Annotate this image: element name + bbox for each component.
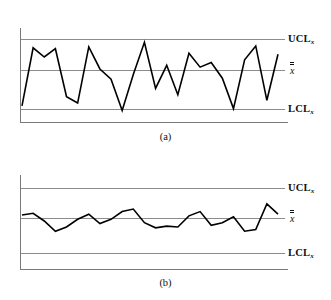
chart-b-center-label: x	[290, 214, 294, 224]
chart-b-ucl-label: UCLx	[288, 183, 314, 195]
chart-a-ucl-label: UCLx	[288, 34, 314, 46]
chart-b-ucl-text: UCL	[288, 182, 311, 193]
chart-a-center-text: x	[290, 66, 294, 76]
chart-a-center-label: x	[290, 66, 294, 76]
chart-b-data-line	[22, 204, 278, 231]
chart-a-plot-area	[0, 0, 331, 150]
chart-b-ucl-subscript: x	[311, 187, 315, 195]
chart-b-caption: (b)	[0, 277, 331, 288]
chart-b-lcl-subscript: x	[310, 252, 314, 260]
chart-a-lcl-label: LCLx	[288, 104, 314, 116]
control-chart-panel-b: UCLx x LCLx (b)	[0, 150, 331, 300]
chart-a-data-line	[22, 42, 278, 110]
chart-a-ucl-subscript: x	[311, 38, 315, 46]
chart-a-lcl-subscript: x	[310, 108, 314, 116]
chart-b-center-text: x	[290, 214, 294, 224]
chart-b-lcl-label: LCLx	[288, 248, 314, 260]
chart-b-lcl-text: LCL	[288, 247, 310, 258]
chart-a-ucl-text: UCL	[288, 33, 311, 44]
chart-a-caption: (a)	[0, 131, 331, 142]
chart-a-lcl-text: LCL	[288, 103, 310, 114]
control-chart-panel-a: UCLx x LCLx (a)	[0, 0, 331, 150]
